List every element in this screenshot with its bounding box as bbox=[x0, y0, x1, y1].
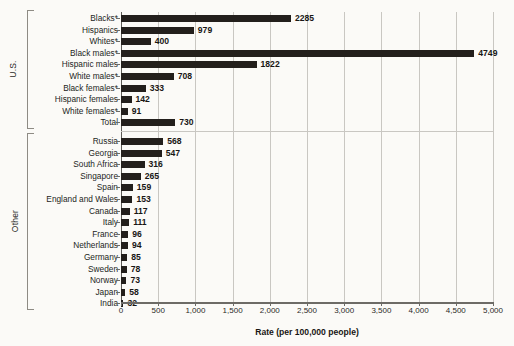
y-axis-tick bbox=[116, 187, 120, 188]
y-axis-tick bbox=[116, 269, 120, 270]
y-axis-tick bbox=[116, 88, 120, 89]
y-axis-tick bbox=[116, 303, 120, 304]
x-tick-label: 3,500 bbox=[371, 306, 391, 315]
y-axis-tick bbox=[116, 211, 120, 212]
x-tick-label: 2,000 bbox=[260, 306, 280, 315]
x-axis-ticks: 05001,0001,5002,0002,5003,0003,5004,0004… bbox=[121, 303, 493, 317]
bar bbox=[121, 27, 194, 34]
bar bbox=[121, 231, 128, 238]
bar-row-label: Total bbox=[0, 115, 118, 130]
y-axis-tick bbox=[116, 64, 120, 65]
bar bbox=[121, 138, 163, 145]
y-axis-tick bbox=[116, 18, 120, 19]
bar bbox=[121, 108, 128, 115]
x-tick-label: 500 bbox=[152, 306, 165, 315]
bar-row-label: India bbox=[0, 296, 118, 311]
y-axis-tick bbox=[116, 222, 120, 223]
bar bbox=[121, 196, 132, 203]
y-axis-tick bbox=[116, 99, 120, 100]
bar bbox=[121, 96, 132, 103]
bar bbox=[121, 15, 291, 22]
group-separator bbox=[121, 131, 493, 132]
bar bbox=[121, 119, 175, 126]
x-tick-label: 2,500 bbox=[297, 306, 317, 315]
bar bbox=[121, 85, 146, 92]
y-axis-tick bbox=[116, 234, 120, 235]
bar-chart: U.S. Other Blacks*2285Hispanics979Whites… bbox=[0, 0, 514, 346]
x-tick-label: 1,500 bbox=[223, 306, 243, 315]
bar bbox=[121, 184, 133, 191]
bar bbox=[121, 61, 257, 68]
x-tick-label: 0 bbox=[119, 306, 123, 315]
y-axis-tick bbox=[116, 292, 120, 293]
x-tick-label: 1,000 bbox=[185, 306, 205, 315]
x-axis-title: Rate (per 100,000 people) bbox=[121, 327, 493, 337]
y-axis-tick bbox=[116, 176, 120, 177]
bar bbox=[121, 38, 151, 45]
bar bbox=[121, 73, 174, 80]
y-axis-tick bbox=[116, 111, 120, 112]
bar bbox=[121, 161, 145, 168]
bar bbox=[121, 242, 128, 249]
bar bbox=[121, 173, 141, 180]
y-axis-tick bbox=[116, 76, 120, 77]
y-axis-tick bbox=[116, 257, 120, 258]
y-axis-tick bbox=[116, 280, 120, 281]
x-tick-label: 4,500 bbox=[446, 306, 466, 315]
bar-container: 730 bbox=[121, 115, 514, 130]
bar-row: Total730 bbox=[0, 115, 514, 130]
bar bbox=[121, 50, 474, 57]
y-axis-tick bbox=[116, 122, 120, 123]
x-tick-label: 3,000 bbox=[334, 306, 354, 315]
y-axis-tick bbox=[116, 153, 120, 154]
bar bbox=[121, 208, 130, 215]
bar bbox=[121, 219, 129, 226]
y-axis-tick bbox=[116, 53, 120, 54]
y-axis-tick bbox=[116, 30, 120, 31]
x-tick-label: 5,000 bbox=[483, 306, 503, 315]
y-axis-tick bbox=[116, 141, 120, 142]
y-axis-tick bbox=[116, 164, 120, 165]
y-axis-tick bbox=[116, 245, 120, 246]
y-axis-tick bbox=[116, 41, 120, 42]
bar bbox=[121, 150, 162, 157]
x-tick-label: 4,000 bbox=[409, 306, 429, 315]
y-axis-tick bbox=[116, 199, 120, 200]
bar-value-label: 730 bbox=[175, 115, 193, 130]
